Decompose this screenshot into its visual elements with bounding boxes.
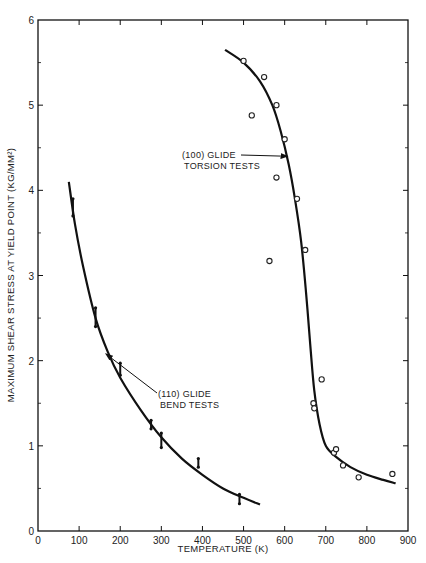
open-circle-marker [312,406,317,411]
open-circle-marker [274,103,279,108]
x-tick-label: 900 [400,535,417,546]
open-circle-marker [390,471,395,476]
annotation-text: BEND TESTS [160,400,219,410]
open-circle-marker [274,175,279,180]
open-circle-marker [249,113,254,118]
annotation-text: (110) GLIDE [158,389,211,399]
x-tick-label: 600 [276,535,293,546]
annotation-arrow [106,354,157,393]
x-tick-label: 0 [35,535,41,546]
x-tick-label: 300 [153,535,170,546]
y-tick-label: 4 [28,185,34,196]
y-tick-label: 0 [28,526,34,537]
x-tick-label: 200 [112,535,129,546]
data-markers [71,58,395,505]
y-tick-label: 5 [28,100,34,111]
annotation-arrow [241,155,288,156]
x-tick-label: 700 [317,535,334,546]
x-axis-label: TEMPERATURE (K) [178,543,269,554]
open-circle-marker [311,401,316,406]
chart: 0100200300400500600700800900 0123456 (11… [0,0,426,563]
x-tick-label: 800 [359,535,376,546]
y-tick-label: 3 [28,271,34,282]
open-circle-marker [282,137,287,142]
open-circle-marker [262,74,267,79]
open-circle-marker [319,377,324,382]
y-tick-label: 6 [28,15,34,26]
plot-frame [38,20,408,531]
open-circle-marker [267,258,272,263]
y-tick-label: 2 [28,356,34,367]
open-circle-marker [241,58,246,63]
y-axis-label: MAXIMUM SHEAR STRESS AT YIELD POINT (KG/… [5,148,16,402]
x-axis-ticks: 0100200300400500600700800900 [35,20,417,546]
y-tick-label: 1 [28,441,34,452]
annotation-text: TORSION TESTS [184,161,260,171]
open-circle-marker [356,475,361,480]
open-circle-marker [340,463,345,468]
annotations: (110) GLIDEBEND TESTS(100) GLIDETORSION … [106,150,288,410]
fit-curve-1 [69,182,260,505]
plot-border [38,20,408,531]
annotation-text: (100) GLIDE [182,150,236,160]
annotation-2: (100) GLIDETORSION TESTS [182,150,288,171]
fit-curves [69,50,396,505]
open-circle-marker [303,247,308,252]
open-circle-marker [294,196,299,201]
open-circle-marker [333,447,338,452]
x-tick-label: 100 [71,535,88,546]
